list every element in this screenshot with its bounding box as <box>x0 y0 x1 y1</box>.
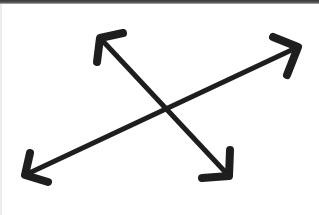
diagonal-arrow-nw-se-icon <box>97 33 230 178</box>
diagonal-arrow-sw-ne-icon <box>25 37 298 182</box>
diagram-canvas: Two crossing lines, each with arrowheads… <box>0 0 319 215</box>
arrow-shaft <box>25 47 298 175</box>
crossing-arrows-icon <box>0 0 319 215</box>
